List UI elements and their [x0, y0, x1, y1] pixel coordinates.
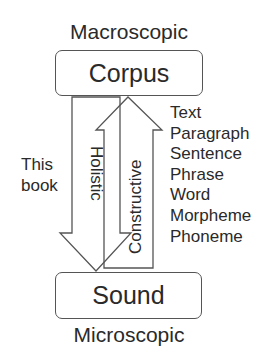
microscopic-label: Microscopic: [0, 323, 258, 347]
side-label-line-2: book: [21, 175, 58, 196]
sound-box: Sound: [55, 272, 202, 319]
level-item: Phrase: [170, 165, 251, 186]
level-item: Sentence: [170, 144, 251, 165]
constructive-label: Constructive: [126, 160, 146, 254]
this-book-label: This book: [21, 154, 58, 196]
holistic-label: Holistic: [86, 146, 106, 201]
side-label-line-1: This: [21, 154, 58, 175]
level-item: Word: [170, 185, 251, 206]
level-item: Morpheme: [170, 206, 251, 227]
sound-label: Sound: [92, 281, 164, 310]
corpus-label: Corpus: [89, 59, 170, 88]
corpus-box: Corpus: [55, 50, 203, 96]
level-item: Phoneme: [170, 227, 251, 248]
linguistic-levels-list: Text Paragraph Sentence Phrase Word Morp…: [170, 103, 251, 247]
level-item: Text: [170, 103, 251, 124]
level-item: Paragraph: [170, 124, 251, 145]
